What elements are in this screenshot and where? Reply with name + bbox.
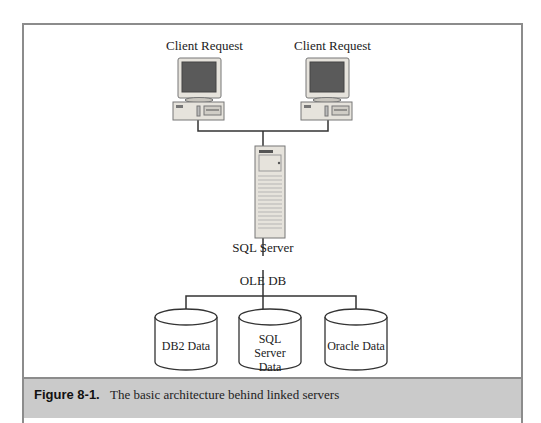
database-icon (325, 309, 387, 325)
database-icon (155, 309, 217, 325)
database-label: Oracle Data (325, 339, 387, 353)
database-icon (239, 309, 301, 325)
figure-caption: Figure 8-1. The basic architecture behin… (22, 377, 523, 418)
client-label: Client Request (166, 38, 232, 54)
client-computer-icon (173, 58, 224, 120)
database-label: SQL Server Data (247, 332, 293, 374)
connector-label: OLE DB (233, 273, 293, 289)
server-tower-icon (255, 146, 285, 238)
database-label: DB2 Data (155, 339, 217, 353)
figure-number: Figure 8-1. (34, 387, 100, 402)
client-label: Client Request (294, 38, 360, 54)
figure-caption-text: The basic architecture behind linked ser… (110, 387, 339, 403)
client-computer-icon (301, 58, 352, 120)
server-label: SQL Server (223, 240, 303, 256)
